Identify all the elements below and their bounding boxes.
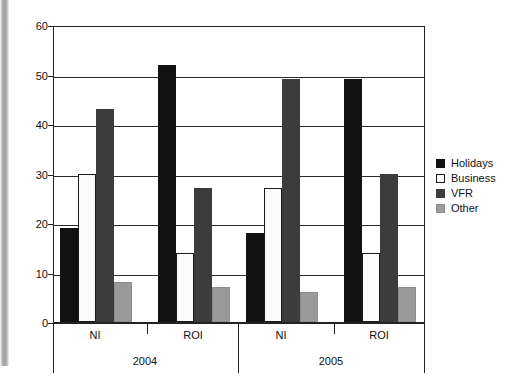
legend-item-label: Other [451, 203, 479, 214]
y-axis-tick-label: 30 [18, 169, 48, 180]
bar [78, 174, 96, 323]
legend-item-label: VFR [451, 188, 473, 199]
legend-item: VFR [436, 186, 506, 200]
x-axis: NIROINIROI 20042005 [53, 323, 425, 373]
bar [96, 109, 114, 322]
x-axis-region-label: ROI [168, 330, 218, 341]
dark-gray-square-icon [436, 189, 445, 198]
y-axis-tick-label: 50 [18, 70, 48, 81]
x-axis-region-label: NI [70, 330, 120, 341]
page-edge-artifact [0, 0, 9, 366]
y-axis-tick-label: 60 [18, 21, 48, 32]
bar [246, 233, 264, 322]
x-axis-region-label: NI [256, 330, 306, 341]
bar [194, 188, 212, 322]
chart-canvas: 0102030405060 NIROINIROI 20042005 Holida… [0, 0, 511, 378]
bar [344, 79, 362, 322]
x-axis-year-tier: 20042005 [53, 348, 425, 373]
bar [282, 79, 300, 322]
x-axis-year-label: 2004 [115, 356, 175, 367]
x-axis-year-label: 2005 [301, 356, 361, 367]
white-square-icon [436, 174, 445, 183]
y-axis: 0102030405060 [15, 26, 48, 323]
bar [158, 65, 176, 322]
legend-item-label: Holidays [451, 158, 493, 169]
bar [362, 253, 380, 322]
y-axis-tick-label: 10 [18, 268, 48, 279]
bar [114, 282, 132, 322]
gray-square-icon [436, 204, 445, 213]
legend-item-label: Business [451, 173, 496, 184]
bar [380, 174, 398, 323]
legend-item: Other [436, 201, 506, 215]
bar-series-container [54, 27, 424, 322]
black-square-icon [436, 159, 445, 168]
plot-area [53, 26, 425, 323]
y-axis-tick-label: 40 [18, 120, 48, 131]
chart-legend: HolidaysBusinessVFROther [436, 156, 506, 216]
legend-item: Business [436, 171, 506, 185]
bar [176, 253, 194, 322]
bar [264, 188, 282, 322]
x-axis-separator-tick [334, 324, 335, 334]
bar [398, 287, 416, 322]
bar [60, 228, 78, 322]
x-axis-separator-tick [147, 324, 148, 334]
x-axis-region-tier: NIROINIROI [53, 324, 425, 348]
bar [300, 292, 318, 322]
y-axis-tick-label: 20 [18, 219, 48, 230]
bar [212, 287, 230, 322]
legend-item: Holidays [436, 156, 506, 170]
y-axis-tick-label: 0 [18, 318, 48, 329]
x-axis-region-label: ROI [354, 330, 404, 341]
